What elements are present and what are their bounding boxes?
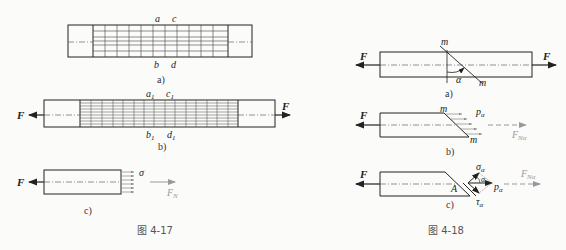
point-A-label: A bbox=[450, 183, 458, 194]
panel-label: a) bbox=[157, 74, 165, 86]
fig-4-18-a: F F m m α a) bbox=[356, 36, 556, 100]
section-m-top: m bbox=[441, 36, 448, 47]
label-a1: a1 bbox=[146, 88, 155, 101]
fig-4-18-c: F A σα α pα τα FNα c) bbox=[356, 161, 540, 211]
alpha-label: α bbox=[456, 74, 462, 85]
label-c1: c1 bbox=[166, 88, 174, 101]
force-left: F bbox=[359, 50, 368, 62]
section-m-bottom: m bbox=[479, 77, 486, 88]
figure-caption-4-18: 图 4-18 bbox=[428, 225, 464, 236]
force-left: F bbox=[359, 109, 368, 121]
figure-caption-4-17: 图 4-17 bbox=[137, 225, 173, 236]
panel-label: b) bbox=[158, 141, 166, 153]
force-left: F bbox=[16, 176, 25, 188]
tau-alpha-label: τα bbox=[476, 196, 484, 209]
force-left: F bbox=[16, 109, 25, 121]
fig-4-17-c: F σ FN c) bbox=[16, 167, 178, 217]
resultant-label: FNα bbox=[511, 129, 527, 142]
p-alpha-label: pα bbox=[493, 181, 503, 194]
section-m-top: m bbox=[440, 103, 447, 114]
force-right: F bbox=[281, 100, 290, 112]
sigma-alpha-label: σα bbox=[476, 161, 485, 174]
sigma-label: σ bbox=[139, 167, 145, 178]
force-left: F bbox=[359, 168, 368, 180]
label-a: a bbox=[155, 13, 160, 24]
p-alpha-label: pα bbox=[475, 106, 485, 119]
fig-4-17-a: a c b d a) bbox=[68, 13, 252, 86]
resultant-label: FN bbox=[166, 187, 178, 200]
panel-label: b) bbox=[446, 146, 454, 158]
resultant-label: FNα bbox=[520, 168, 536, 181]
panel-label: c) bbox=[84, 205, 92, 217]
fig-4-17-b: F F a1 c1 b1 d1 b) bbox=[16, 88, 290, 153]
figures-canvas: a c b d a) F F a1 c1 b1 d1 bbox=[0, 0, 566, 250]
panel-label: a) bbox=[445, 88, 453, 100]
panel-label: c) bbox=[446, 199, 454, 211]
label-d1: d1 bbox=[167, 129, 176, 142]
label-c: c bbox=[172, 13, 177, 24]
fig-4-18-b: F m m pα FNα b) bbox=[356, 103, 527, 158]
force-right: F bbox=[542, 50, 551, 62]
label-b1: b1 bbox=[146, 129, 155, 142]
label-b: b bbox=[154, 59, 159, 70]
label-d: d bbox=[171, 59, 177, 70]
section-m-bottom: m bbox=[470, 134, 477, 145]
